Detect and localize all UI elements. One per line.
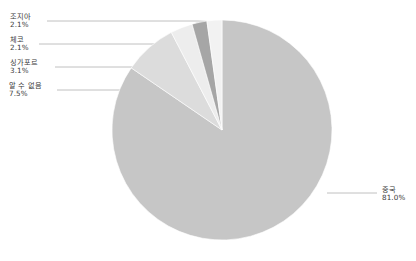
callout-czech-value: 2.1% [10,44,29,52]
pie-slices [112,20,332,240]
callout-singapore-value: 3.1% [10,67,38,75]
callout-unknown: 알 수 없음 7.5% [9,82,42,99]
pie-chart-figure: 조지아 2.1% 체코 2.1% 싱가포르 3.1% 알 수 없음 7.5% 중… [0,0,416,261]
leader-line-georgia [47,21,219,22]
callout-china: 중국 81.0% [382,186,405,203]
callout-georgia-value: 2.1% [10,21,31,29]
callout-china-value: 81.0% [382,194,405,202]
pie-chart-canvas [0,0,416,261]
callout-singapore: 싱가포르 3.1% [10,59,38,76]
callout-czech: 체코 2.1% [10,36,29,53]
callout-georgia: 조지아 2.1% [10,13,31,30]
callout-unknown-value: 7.5% [9,90,42,98]
